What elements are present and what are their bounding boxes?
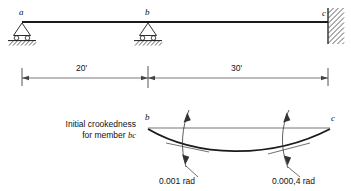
dimension-arrow-right-30 [321,76,328,81]
angle-arc-b [166,110,209,167]
roller-support-a [8,23,36,46]
dimension-arrow-left-20 [22,76,29,81]
crooked-member-bc [148,129,330,151]
roller-support-b [134,23,162,46]
node-label-c: c [322,9,326,18]
dimension-line-group [22,66,328,88]
crookedness-end-label-b: b [145,113,150,122]
node-label-b: b [145,8,150,17]
crookedness-caption-member: bc [128,130,136,140]
crookedness-caption-line2-prefix: for member [82,130,128,140]
diagram-canvas [0,0,351,191]
crookedness-caption: Initial crookedness for member bc [44,119,136,140]
dimension-label-span-20: 20' [76,64,87,73]
angle-arrow-c-top [283,113,290,123]
structural-diagram-figure: a b c 20' 30' Initial crookedness for me… [0,0,351,191]
node-label-a: a [19,8,24,17]
fixed-support-c [328,8,344,44]
angle-label-0001-rad: 0.001 rad [159,177,195,186]
crookedness-caption-line1: Initial crookedness [66,119,136,129]
angle-arc-c [268,110,310,168]
angle-label-00004-rad: 0.000,4 rad [272,177,315,186]
dimension-arrow-right-20 [141,76,148,81]
angle-arrow-b-bottom [182,155,189,165]
angle-arrow-b-top [184,113,191,123]
angle-arrow-c-bottom [284,156,291,166]
dimension-label-span-30: 30' [231,64,242,73]
crookedness-end-label-c: c [331,114,335,123]
dimension-arrow-left-30 [148,76,155,81]
